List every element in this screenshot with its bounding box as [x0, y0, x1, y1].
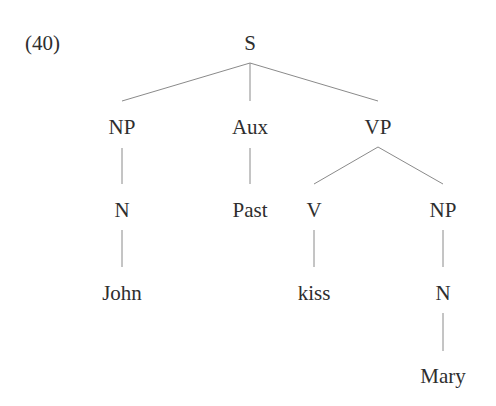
example-number: (40) [25, 33, 60, 54]
node-s: S [244, 33, 256, 54]
leaf-john: John [102, 283, 142, 304]
node-v: V [306, 200, 321, 221]
branch-vp-np [378, 147, 443, 184]
branch-vp-v [314, 147, 378, 184]
node-n-subject: N [114, 200, 129, 221]
node-past: Past [232, 200, 267, 221]
leaf-kiss: kiss [298, 283, 331, 304]
node-aux: Aux [232, 117, 268, 138]
node-n-object: N [435, 283, 450, 304]
leaf-mary: Mary [420, 366, 466, 387]
branch-s-vp [250, 63, 378, 101]
node-np-subject: NP [109, 117, 136, 138]
node-np-object: NP [430, 200, 457, 221]
node-vp: VP [365, 117, 392, 138]
branch-s-np [122, 63, 250, 101]
